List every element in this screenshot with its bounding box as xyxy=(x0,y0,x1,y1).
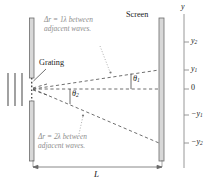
theta1-label: θ1 xyxy=(133,74,140,84)
y-axis-label: y xyxy=(181,2,185,11)
tick-label-y1: y1 xyxy=(191,64,197,73)
tick-label-neg-y1: −y1 xyxy=(191,109,203,118)
screen-label: Screen xyxy=(126,10,148,19)
tick-label-neg-y1-sub: 1 xyxy=(200,112,203,118)
leader-endpoint-markers xyxy=(82,71,112,116)
annotation-lower: Δr = 2λ between adjacent waves. xyxy=(38,133,87,150)
tick-label-zero: 0 xyxy=(191,83,195,92)
theta2-subscript: 2 xyxy=(76,92,79,98)
tick-label-y2-sub: 2 xyxy=(195,39,198,45)
length-label: L xyxy=(94,169,99,179)
tick-label-neg-y2-sub: 2 xyxy=(200,140,203,146)
grating-leader xyxy=(34,69,47,81)
grating-interference-diagram: Δr = 1λ between adjacent waves. Δr = 2λ … xyxy=(0,0,218,184)
incoming-wavefronts xyxy=(8,73,22,106)
tick-label-y1-sub: 1 xyxy=(195,67,198,73)
theta1-subscript: 1 xyxy=(137,77,140,83)
diagram-canvas xyxy=(0,0,218,184)
screen-bar xyxy=(159,18,164,161)
annotation-upper-line2: adjacent waves. xyxy=(44,25,93,34)
grating-label: Grating xyxy=(39,58,64,67)
annotation-upper: Δr = 1λ between adjacent waves. xyxy=(44,16,93,33)
length-dimension xyxy=(33,160,162,169)
tick-label-neg-y2: −y2 xyxy=(191,137,203,146)
tick-label-y2: y2 xyxy=(191,36,197,45)
theta2-label: θ2 xyxy=(72,89,79,99)
ray-m1 xyxy=(33,70,159,89)
tick-label-zero-base: 0 xyxy=(191,83,195,92)
annotation-leaders xyxy=(79,46,110,134)
annotation-lower-line2: adjacent waves. xyxy=(38,142,87,151)
leader-upper xyxy=(100,46,110,72)
y-axis xyxy=(184,14,189,168)
ray-stub-down xyxy=(33,90,47,95)
